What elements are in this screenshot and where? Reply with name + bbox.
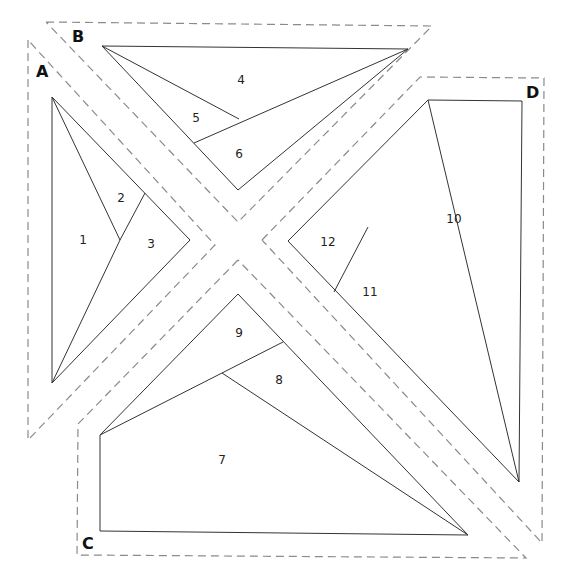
piece-label-10: 10 — [446, 212, 461, 226]
section-d: D 10 11 12 — [262, 77, 544, 543]
piece-label-4: 4 — [237, 73, 245, 87]
piece-label-11: 11 — [362, 285, 377, 299]
section-d-seam-allowance — [262, 77, 544, 543]
section-b-outline — [102, 46, 408, 190]
piece-label-7: 7 — [218, 453, 226, 467]
piece-label-9: 9 — [235, 326, 243, 340]
section-a: A 1 2 3 — [28, 40, 215, 440]
piece-label-5: 5 — [192, 111, 200, 125]
piece-8-seam — [222, 373, 468, 535]
piece-label-12: 12 — [320, 235, 335, 249]
piece-label-3: 3 — [147, 237, 155, 251]
piece-10-11-seam — [428, 100, 519, 482]
section-c: C 9 8 7 — [77, 260, 526, 558]
piece-5-6-seam — [194, 49, 408, 143]
piece-7-8-seam — [100, 342, 283, 435]
section-b-seam-allowance — [46, 22, 432, 222]
section-b: B 4 5 6 — [46, 22, 432, 222]
section-a-seam-allowance — [28, 40, 215, 440]
section-label-c: C — [82, 534, 94, 553]
section-c-seam-allowance — [77, 260, 526, 558]
piece-label-6: 6 — [235, 147, 243, 161]
piece-11-12-seam — [334, 227, 368, 292]
piece-4-5-seam — [102, 46, 239, 119]
section-d-outline — [288, 100, 522, 482]
piece-label-1: 1 — [79, 233, 87, 247]
section-label-a: A — [36, 62, 49, 81]
section-label-d: D — [526, 83, 539, 102]
pattern-diagram: A 1 2 3 B 4 5 6 C 9 8 7 D 10 11 12 — [0, 0, 569, 584]
section-label-b: B — [72, 27, 84, 46]
piece-label-8: 8 — [275, 373, 283, 387]
piece-label-2: 2 — [117, 191, 125, 205]
